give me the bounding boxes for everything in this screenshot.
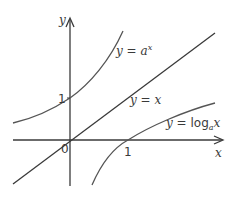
y-axis-label: y (58, 13, 66, 27)
y-axis (66, 18, 74, 186)
origin-label: 0 (61, 142, 69, 156)
x-axis (13, 136, 223, 144)
y-tick-label: 1 (58, 92, 66, 106)
exponential-curve (13, 31, 123, 123)
function-graph: y x 0 1 1 y = ax y = x y = logax (0, 0, 237, 198)
logarithm-label: y = logax (165, 116, 221, 132)
identity-label: y = x (129, 93, 161, 107)
exponential-label: y = ax (115, 43, 153, 58)
x-axis-label: x (215, 146, 222, 160)
x-tick-label: 1 (124, 145, 132, 159)
identity-line (13, 33, 215, 184)
